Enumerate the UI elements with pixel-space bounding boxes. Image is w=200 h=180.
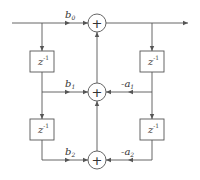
adder-mid: + [88,83,106,101]
adder-bottom: + [88,151,106,169]
coef-a2: -a2 [121,146,134,158]
delay-right-2: z-1 [140,119,164,140]
coef-b0: b0 [65,9,75,21]
svg-text:+: + [92,85,103,100]
filter-diagram: + + + z-1 z-1 z-1 z-1 b0 b1 b2 -a1 -a2 [0,0,200,180]
coef-a1: -a1 [121,78,134,90]
coef-b2: b2 [65,146,75,158]
delay-right-1: z-1 [140,51,164,72]
adder-top: + [88,14,106,32]
delay-left-1: z-1 [30,51,54,72]
coef-b1: b1 [65,78,75,90]
svg-text:+: + [92,153,103,168]
svg-text:+: + [92,16,103,31]
delay-left-2: z-1 [30,119,54,140]
